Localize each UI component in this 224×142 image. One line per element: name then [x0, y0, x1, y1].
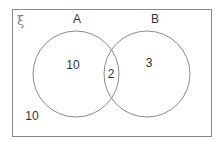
set-a-circle — [33, 31, 119, 117]
universal-set-symbol: ξ — [17, 13, 24, 28]
set-a-label: A — [73, 12, 81, 26]
region-outside-value: 10 — [25, 109, 39, 123]
venn-svg: ξ A B 10 2 3 10 — [0, 0, 224, 142]
region-intersection-value: 2 — [108, 67, 115, 81]
region-only-b-value: 3 — [146, 56, 153, 70]
region-only-a-value: 10 — [66, 58, 80, 72]
set-b-circle — [104, 31, 190, 117]
set-b-label: B — [151, 12, 159, 26]
venn-diagram: ξ A B 10 2 3 10 — [0, 0, 224, 142]
